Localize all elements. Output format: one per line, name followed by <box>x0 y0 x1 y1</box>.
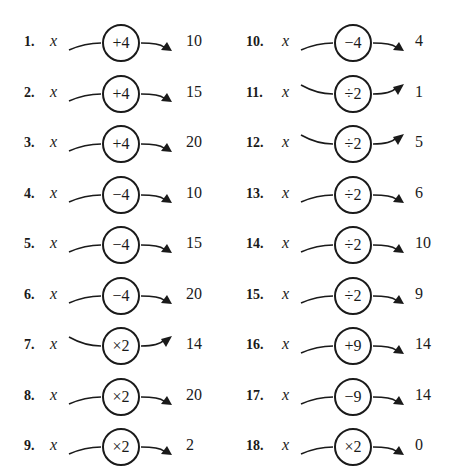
operation-label: +9 <box>344 337 361 355</box>
operation-label: ÷2 <box>345 236 362 254</box>
output-value: 20 <box>186 133 202 151</box>
function-machine-problem: 16. x +9 14 <box>225 321 450 371</box>
operation-circle: ×2 <box>102 378 140 416</box>
operation-circle: ÷2 <box>334 226 372 264</box>
function-machine-problem: 7. x ×2 14 <box>0 321 225 371</box>
output-value: 10 <box>186 184 202 202</box>
operation-label: ×2 <box>112 337 129 355</box>
function-machine-problem: 11. x ÷2 1 <box>225 69 450 119</box>
operation-circle: −9 <box>334 378 372 416</box>
operation-circle: +4 <box>102 24 140 62</box>
operation-circle: ×2 <box>102 327 140 365</box>
operation-label: ÷2 <box>345 85 362 103</box>
operation-label: +4 <box>112 85 129 103</box>
output-value: 20 <box>186 386 202 404</box>
function-machine-problem: 15. x ÷2 9 <box>225 271 450 321</box>
function-machine-problem: 4. x −4 10 <box>0 170 225 220</box>
function-machine-problem: 3. x +4 20 <box>0 119 225 169</box>
output-value: 0 <box>415 436 423 454</box>
operation-label: −4 <box>344 34 361 52</box>
output-value: 4 <box>415 32 423 50</box>
problem-column-left: 1. x +4 10 2. x +4 15 3. x +4 <box>0 0 225 476</box>
operation-circle: +9 <box>334 327 372 365</box>
operation-circle: +4 <box>102 75 140 113</box>
operation-circle: ÷2 <box>334 277 372 315</box>
function-machine-problem: 14. x ÷2 10 <box>225 220 450 270</box>
output-value: 15 <box>186 83 202 101</box>
operation-label: +4 <box>112 34 129 52</box>
function-machine-problem: 9. x ×2 2 <box>0 422 225 472</box>
operation-circle: −4 <box>102 277 140 315</box>
operation-label: +4 <box>112 135 129 153</box>
output-value: 14 <box>415 386 431 404</box>
output-value: 14 <box>186 335 202 353</box>
operation-label: ÷2 <box>345 135 362 153</box>
operation-circle: ÷2 <box>334 176 372 214</box>
operation-label: −4 <box>112 287 129 305</box>
operation-circle: −4 <box>102 176 140 214</box>
output-value: 2 <box>186 436 194 454</box>
output-value: 14 <box>415 335 431 353</box>
output-value: 10 <box>186 32 202 50</box>
problem-column-right: 10. x −4 4 11. x ÷2 1 12. x ÷2 <box>225 0 450 476</box>
operation-circle: ÷2 <box>334 75 372 113</box>
output-value: 1 <box>415 83 423 101</box>
operation-circle: −4 <box>102 226 140 264</box>
output-value: 5 <box>415 133 423 151</box>
operation-label: ×2 <box>112 438 129 456</box>
operation-label: −9 <box>344 388 361 406</box>
output-value: 9 <box>415 285 423 303</box>
function-machine-problem: 10. x −4 4 <box>225 18 450 68</box>
operation-label: −4 <box>112 236 129 254</box>
output-value: 10 <box>415 234 431 252</box>
operation-circle: ÷2 <box>334 125 372 163</box>
function-machine-problem: 1. x +4 10 <box>0 18 225 68</box>
operation-circle: ×2 <box>334 428 372 466</box>
operation-label: −4 <box>112 186 129 204</box>
output-value: 6 <box>415 184 423 202</box>
operation-circle: −4 <box>334 24 372 62</box>
operation-label: ÷2 <box>345 186 362 204</box>
function-machine-problem: 17. x −9 14 <box>225 372 450 422</box>
output-value: 15 <box>186 234 202 252</box>
operation-circle: +4 <box>102 125 140 163</box>
operation-label: ÷2 <box>345 287 362 305</box>
operation-label: ×2 <box>112 388 129 406</box>
function-machine-problem: 12. x ÷2 5 <box>225 119 450 169</box>
function-machine-problem: 5. x −4 15 <box>0 220 225 270</box>
operation-label: ×2 <box>344 438 361 456</box>
operation-circle: ×2 <box>102 428 140 466</box>
function-machine-problem: 13. x ÷2 6 <box>225 170 450 220</box>
function-machine-problem: 2. x +4 15 <box>0 69 225 119</box>
function-machine-problem: 8. x ×2 20 <box>0 372 225 422</box>
output-value: 20 <box>186 285 202 303</box>
function-machine-problem: 18. x ×2 0 <box>225 422 450 472</box>
function-machine-problem: 6. x −4 20 <box>0 271 225 321</box>
